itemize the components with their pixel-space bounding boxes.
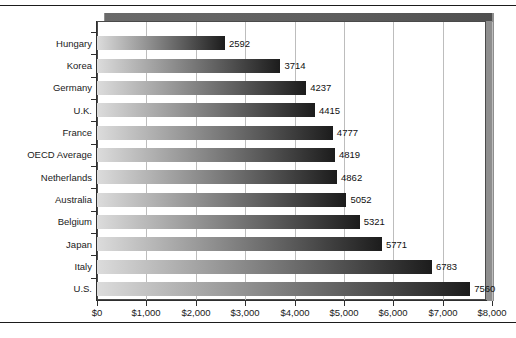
value-label-netherlands: 4862 bbox=[341, 172, 362, 183]
category-label-korea: Korea bbox=[67, 60, 92, 71]
value-label-oecd-average: 4819 bbox=[339, 149, 360, 160]
x-axis-label-1000: $1,000 bbox=[131, 307, 160, 318]
x-tick-4000 bbox=[295, 301, 296, 306]
bar-japan bbox=[97, 237, 382, 251]
bar-italy bbox=[97, 260, 432, 274]
value-label-germany: 4237 bbox=[310, 82, 331, 93]
y-tick-4 bbox=[91, 121, 97, 122]
value-label-korea: 3714 bbox=[284, 60, 305, 71]
y-tick-8 bbox=[91, 211, 97, 212]
x-tick-1000 bbox=[146, 301, 147, 306]
bottom-divider-rule bbox=[0, 322, 516, 323]
category-label-australia: Australia bbox=[55, 194, 92, 205]
bar-australia bbox=[97, 193, 346, 207]
bar-hungary bbox=[97, 36, 225, 50]
x-tick-7000 bbox=[443, 301, 444, 306]
x-axis-label-6000: $6,000 bbox=[378, 307, 407, 318]
value-label-u-k-: 4415 bbox=[319, 105, 340, 116]
x-axis-label-8000: $8,000 bbox=[477, 307, 506, 318]
bar-france bbox=[97, 126, 333, 140]
category-label-hungary: Hungary bbox=[56, 38, 92, 49]
x-axis-label-3000: $3,000 bbox=[230, 307, 259, 318]
y-tick-3 bbox=[91, 99, 97, 100]
y-tick-11 bbox=[91, 278, 97, 279]
category-label-france: France bbox=[62, 127, 92, 138]
y-tick-9 bbox=[91, 233, 97, 234]
value-label-belgium: 5321 bbox=[364, 216, 385, 227]
category-label-u-s-: U.S. bbox=[74, 283, 92, 294]
gridline-8000 bbox=[492, 22, 493, 301]
category-label-u-k-: U.K. bbox=[74, 105, 92, 116]
category-label-italy: Italy bbox=[75, 261, 92, 272]
category-label-belgium: Belgium bbox=[58, 216, 92, 227]
y-tick-2 bbox=[91, 77, 97, 78]
x-tick-0 bbox=[97, 301, 98, 306]
y-tick-6 bbox=[91, 166, 97, 167]
y-tick-1 bbox=[91, 54, 97, 55]
value-label-france: 4777 bbox=[337, 127, 358, 138]
bar-chart-figure: HungaryKoreaGermanyU.K.FranceOECD Averag… bbox=[0, 0, 516, 338]
x-tick-3000 bbox=[245, 301, 246, 306]
bar-korea bbox=[97, 59, 280, 73]
bar-u-s- bbox=[97, 282, 470, 296]
plot-header-strip bbox=[105, 13, 492, 21]
x-axis-label-5000: $5,000 bbox=[329, 307, 358, 318]
bar-germany bbox=[97, 81, 306, 95]
value-label-u-s-: 7560 bbox=[474, 283, 495, 294]
value-label-australia: 5052 bbox=[350, 194, 371, 205]
x-tick-8000 bbox=[492, 301, 493, 306]
x-tick-5000 bbox=[344, 301, 345, 306]
category-label-netherlands: Netherlands bbox=[41, 172, 92, 183]
gridline-7000 bbox=[443, 22, 444, 301]
y-tick-0 bbox=[91, 32, 97, 33]
bar-netherlands bbox=[97, 170, 337, 184]
x-axis-label-2000: $2,000 bbox=[181, 307, 210, 318]
category-label-japan: Japan bbox=[66, 239, 92, 250]
category-label-germany: Germany bbox=[53, 82, 92, 93]
bar-belgium bbox=[97, 215, 360, 229]
x-tick-6000 bbox=[393, 301, 394, 306]
category-label-oecd-average: OECD Average bbox=[27, 149, 92, 160]
y-tick-10 bbox=[91, 255, 97, 256]
value-label-hungary: 2592 bbox=[229, 38, 250, 49]
x-axis-label-4000: $4,000 bbox=[280, 307, 309, 318]
bar-u-k- bbox=[97, 103, 315, 117]
x-axis-label-7000: $7,000 bbox=[428, 307, 457, 318]
y-tick-5 bbox=[91, 144, 97, 145]
bar-oecd-average bbox=[97, 148, 335, 162]
y-tick-7 bbox=[91, 188, 97, 189]
x-axis-spine bbox=[96, 300, 487, 301]
top-divider-rule bbox=[0, 5, 516, 6]
value-label-japan: 5771 bbox=[386, 239, 407, 250]
x-tick-2000 bbox=[196, 301, 197, 306]
value-label-italy: 6783 bbox=[436, 261, 457, 272]
x-axis-label-0: $0 bbox=[92, 307, 103, 318]
